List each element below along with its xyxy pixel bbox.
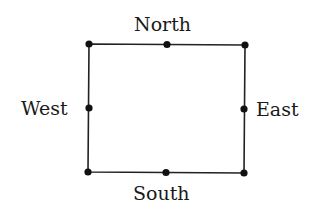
south-west-corner-dot (84, 168, 91, 175)
north-west-corner-dot (85, 40, 92, 47)
west-midpoint-dot (85, 104, 92, 111)
south-east-corner-dot (240, 169, 247, 176)
north-east-corner-dot (241, 41, 248, 48)
south-midpoint-dot (162, 169, 169, 176)
east-midpoint-dot (240, 105, 247, 112)
north-label: North (134, 15, 191, 34)
rectangle-outline (88, 44, 245, 173)
west-label: West (21, 99, 68, 118)
north-midpoint-dot (163, 41, 170, 48)
south-label: South (133, 184, 190, 203)
east-label: East (256, 100, 299, 119)
